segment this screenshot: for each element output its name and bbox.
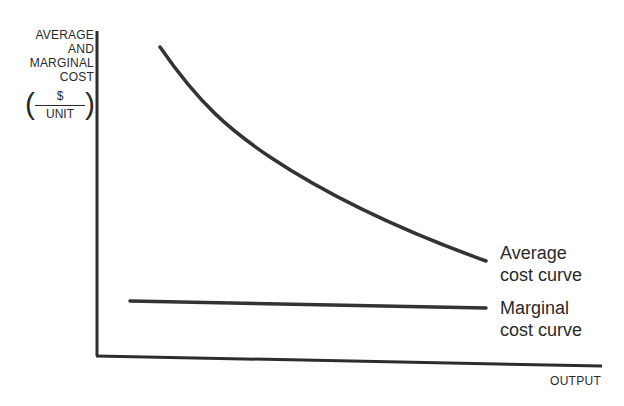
marginal-cost-line [130,301,486,308]
marginal-label-line-1: Marginal [500,297,582,319]
average-cost-label: Average cost curve [500,242,582,286]
left-paren: ( [25,86,35,122]
average-label-line-2: cost curve [500,264,582,286]
y-axis-unit-fraction: ( $ UNIT ) [25,88,95,124]
right-paren: ) [85,86,95,122]
marginal-cost-label: Marginal cost curve [500,297,582,341]
fraction-bar [35,105,85,106]
y-label-line-4: COST [30,70,94,84]
unit-numerator: $ [35,90,85,103]
y-label-line-2: AND [30,42,94,56]
y-label-line-1: AVERAGE [30,28,94,42]
average-label-line-1: Average [500,242,582,264]
marginal-label-line-2: cost curve [500,319,582,341]
unit-denominator: UNIT [35,108,85,121]
average-cost-curve [160,47,486,261]
y-axis-label: AVERAGE AND MARGINAL COST [30,28,94,84]
x-axis-label: OUTPUT [550,374,601,388]
y-label-line-3: MARGINAL [30,56,94,70]
x-axis-line [96,356,602,366]
